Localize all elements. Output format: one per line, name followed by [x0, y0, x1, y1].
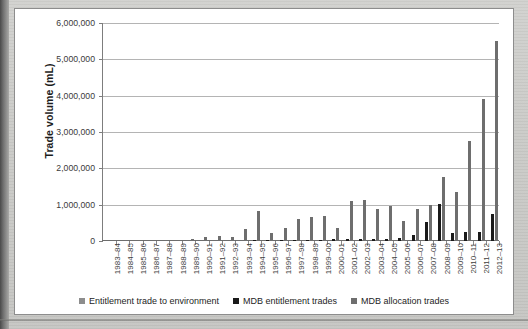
bar [468, 141, 471, 241]
bar-group [301, 23, 314, 241]
x-axis-tick-label: 1994–95 [258, 243, 267, 274]
x-axis-tick-label: 1995–96 [271, 243, 280, 274]
bar-group [169, 23, 182, 241]
x-axis-tick-label: 1998–89 [311, 243, 320, 274]
legend-label: MDB entitlement trades [243, 296, 337, 306]
bar [152, 240, 155, 241]
bar-group [367, 23, 380, 241]
bar [451, 233, 454, 241]
bar [416, 209, 419, 241]
bar [280, 240, 283, 241]
x-axis-tick-label: 1999–00 [324, 243, 333, 274]
y-axis-tick-label: 5,000,000 [31, 54, 95, 64]
bar [464, 232, 467, 241]
y-axis-tickmark [99, 205, 103, 206]
legend-item[interactable]: MDB allocation trades [351, 296, 449, 306]
bar-group [446, 23, 459, 241]
x-axis-tick-label: 2003–04 [377, 243, 386, 274]
bar-series-container [103, 23, 499, 241]
bar-group [473, 23, 486, 241]
x-axis-tick-label: 1992–93 [231, 243, 240, 274]
bar-group [143, 23, 156, 241]
bar-group [354, 23, 367, 241]
x-axis-tick-label: 1989–90 [192, 243, 201, 274]
bar [482, 99, 485, 241]
bar-group [459, 23, 472, 241]
bar-group [314, 23, 327, 241]
bar-group [393, 23, 406, 241]
bar [350, 201, 353, 241]
x-axis-tick-label: 2009–10 [456, 243, 465, 274]
legend-item[interactable]: MDB entitlement trades [233, 296, 337, 306]
bar-group [129, 23, 142, 241]
plot-box [103, 23, 499, 241]
x-axis-tick-label: 2000–01 [337, 243, 346, 274]
bar-group [182, 23, 195, 241]
legend-item[interactable]: Entitlement trade to environment [79, 296, 219, 306]
x-axis-tick-label: 1997–98 [297, 243, 306, 274]
bar [257, 211, 260, 241]
bar [165, 240, 168, 241]
bar-group [209, 23, 222, 241]
y-axis-tickmark [99, 241, 103, 242]
bar [310, 217, 313, 241]
bar [359, 239, 362, 241]
bar [385, 239, 388, 241]
bar [376, 209, 379, 241]
bar [491, 214, 494, 241]
x-axis-tick-label: 1993–94 [245, 243, 254, 274]
bar [398, 238, 401, 241]
bar [253, 240, 256, 241]
bar [389, 206, 392, 241]
x-axis-tick-label: 2001–02 [350, 243, 359, 274]
x-axis-tick-label: 2010–11 [469, 243, 478, 274]
chart-legend: Entitlement trade to environmentMDB enti… [15, 290, 513, 312]
bar-group [486, 23, 499, 241]
y-axis-tickmark [99, 132, 103, 133]
x-axis-tick-label: 2002–03 [363, 243, 372, 274]
bar [112, 240, 115, 241]
bar [270, 233, 273, 241]
y-axis-tickmark [99, 96, 103, 97]
bar [297, 219, 300, 241]
bar [231, 237, 234, 241]
bar-group [341, 23, 354, 241]
y-axis-tick-labels: 6,000,0005,000,0004,000,0003,000,0002,00… [27, 9, 95, 290]
bar-group [156, 23, 169, 241]
bar [429, 205, 432, 241]
x-axis-tick-label: 2004–05 [390, 243, 399, 274]
x-axis-tick-label: 1991–92 [218, 243, 227, 274]
y-axis-tickmark [99, 168, 103, 169]
bar-group [261, 23, 274, 241]
y-axis-tick-label: 1,000,000 [31, 200, 95, 210]
bar-group [195, 23, 208, 241]
x-axis-tick-label: 1996–97 [284, 243, 293, 274]
bar-group [288, 23, 301, 241]
y-axis-tick-label: 6,000,000 [31, 18, 95, 28]
x-axis-tick-label: 2005–06 [403, 243, 412, 274]
bar [266, 240, 269, 241]
bar-group [275, 23, 288, 241]
bar-group [235, 23, 248, 241]
bar-group [103, 23, 116, 241]
bar-group [248, 23, 261, 241]
x-axis-tick-label: 2006–07 [416, 243, 425, 274]
legend-label: Entitlement trade to environment [89, 296, 219, 306]
chart-plot-region: Trade volume (mL) 6,000,0005,000,0004,00… [15, 9, 513, 290]
x-axis-tick-label: 2012–13 [495, 243, 504, 274]
y-axis-tick-label: 3,000,000 [31, 127, 95, 137]
bar [332, 239, 335, 241]
bar [412, 235, 415, 241]
bar [293, 240, 296, 241]
bar-group [420, 23, 433, 241]
x-axis-tick-label: 1986–87 [152, 243, 161, 274]
page-binding-shadow [0, 0, 9, 329]
bar [438, 204, 441, 241]
bar [372, 239, 375, 241]
legend-swatch-icon [233, 298, 239, 304]
bar [455, 192, 458, 241]
x-axis-tick-label: 2011–12 [482, 243, 491, 274]
bar [323, 216, 326, 241]
bar [425, 222, 428, 241]
y-axis-tick-label: 4,000,000 [31, 91, 95, 101]
